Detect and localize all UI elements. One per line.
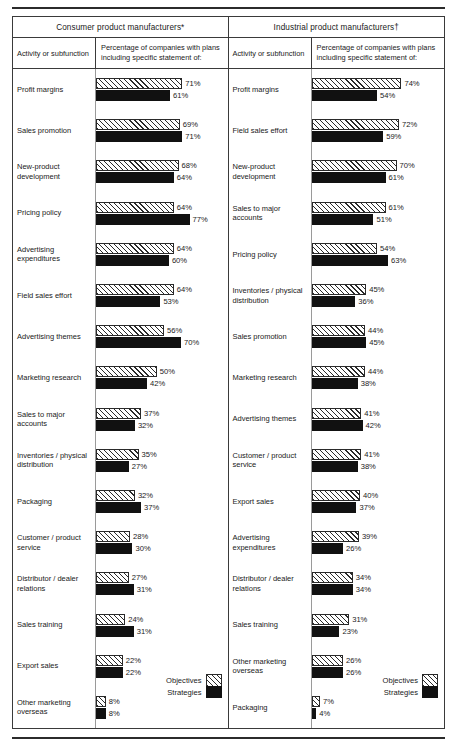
- row-label: Profit margins: [229, 69, 312, 110]
- bar-value-objectives: 27%: [132, 573, 147, 582]
- table-row: Inventories / physical distribution45%36…: [229, 275, 445, 316]
- bar-line-strategies: 27%: [96, 461, 228, 472]
- bar-strategies: [312, 584, 353, 595]
- bar-objectives: [96, 78, 182, 89]
- bar-line-objectives: 32%: [96, 490, 228, 501]
- table-row: Customer / product service28%30%: [13, 522, 228, 563]
- bar-objectives: [312, 160, 397, 171]
- bar-value-objectives: 69%: [183, 120, 198, 129]
- bar-value-objectives: 7%: [323, 697, 334, 706]
- legend-swatch-strategies: [422, 686, 438, 698]
- panel-consumer: Consumer product manufacturers* Activity…: [13, 17, 229, 728]
- bar-value-objectives: 68%: [182, 161, 197, 170]
- bar-objectives: [96, 696, 106, 707]
- row-bars: 32%37%: [96, 481, 228, 522]
- bar-objectives: [312, 366, 365, 377]
- bar-line-objectives: 40%: [312, 490, 445, 501]
- bar-objectives: [312, 119, 399, 130]
- bar-line-strategies: 71%: [96, 131, 228, 142]
- row-label: New-product development: [13, 151, 96, 192]
- bar-line-objectives: 45%: [312, 284, 445, 295]
- bar-value-strategies: 53%: [163, 297, 178, 306]
- bar-value-objectives: 64%: [177, 285, 192, 294]
- bar-value-objectives: 71%: [185, 79, 200, 88]
- row-label: Advertising expenditures: [229, 522, 312, 563]
- top-rule: [12, 7, 445, 9]
- legend-label-objectives: Objectives: [370, 676, 422, 685]
- row-bars: 39%26%: [312, 522, 445, 563]
- bar-line-objectives: 70%: [312, 160, 445, 171]
- bar-line-objectives: 35%: [96, 449, 228, 460]
- bar-objectives: [312, 202, 386, 213]
- row-bars: 37%32%: [96, 399, 228, 440]
- bar-value-strategies: 8%: [109, 709, 120, 718]
- bar-value-objectives: 41%: [364, 450, 379, 459]
- bar-strategies: [312, 214, 374, 225]
- row-bars: 41%38%: [312, 440, 445, 481]
- panel-industrial: Industrial product manufacturers† Activi…: [229, 17, 445, 728]
- bar-objectives: [312, 531, 359, 542]
- bar-value-objectives: 22%: [126, 656, 141, 665]
- bar-value-strategies: 22%: [126, 668, 141, 677]
- table-row: Sales to major accounts61%51%: [229, 193, 445, 234]
- bar-value-objectives: 8%: [109, 697, 120, 706]
- bar-objectives: [96, 655, 123, 666]
- table-row: Sales to major accounts37%32%: [13, 399, 228, 440]
- legend-swatch-objectives: [422, 674, 438, 686]
- bar-value-objectives: 26%: [346, 656, 361, 665]
- row-bars: 64%60%: [96, 234, 228, 275]
- row-bars: 44%45%: [312, 316, 445, 357]
- legend-row-strategies: Strategies: [370, 686, 438, 698]
- table-row: Marketing research50%42%: [13, 357, 228, 398]
- bar-line-strategies: 37%: [312, 502, 445, 513]
- bar-value-strategies: 26%: [346, 668, 361, 677]
- row-label: Customer / product service: [229, 440, 312, 481]
- bar-value-strategies: 37%: [359, 503, 374, 512]
- bar-line-objectives: 61%: [312, 202, 445, 213]
- bar-strategies: [312, 90, 378, 101]
- bar-value-objectives: 44%: [368, 367, 383, 376]
- bar-line-objectives: 27%: [96, 572, 228, 583]
- row-label: Pricing policy: [13, 193, 96, 234]
- bar-value-strategies: 42%: [150, 379, 165, 388]
- bar-value-strategies: 31%: [137, 627, 152, 636]
- row-label: Distributor / dealer relations: [13, 563, 96, 604]
- table-row: Sales promotion69%71%: [13, 110, 228, 151]
- bar-strategies: [312, 172, 386, 183]
- bar-line-objectives: 64%: [96, 284, 228, 295]
- row-label: Export sales: [229, 481, 312, 522]
- bar-objectives: [312, 284, 367, 295]
- bar-strategies: [96, 708, 106, 719]
- bar-value-strategies: 61%: [173, 91, 188, 100]
- table-row: Field sales effort72%59%: [229, 110, 445, 151]
- bar-line-objectives: 44%: [312, 366, 445, 377]
- bar-strategies: [96, 90, 170, 101]
- bar-strategies: [312, 255, 389, 266]
- row-bars: 35%27%: [96, 440, 228, 481]
- bar-strategies: [312, 543, 344, 554]
- bar-line-objectives: 22%: [96, 655, 228, 666]
- legend-row-strategies: Strategies: [154, 686, 222, 698]
- bar-value-objectives: 35%: [142, 450, 157, 459]
- legend-row-objectives: Objectives: [154, 674, 222, 686]
- table-row: Marketing research44%38%: [229, 357, 445, 398]
- bar-value-objectives: 72%: [402, 120, 417, 129]
- row-label: Field sales effort: [229, 110, 312, 151]
- bar-line-strategies: 42%: [96, 378, 228, 389]
- bar-value-strategies: 64%: [177, 173, 192, 182]
- table-row: Sales promotion44%45%: [229, 316, 445, 357]
- bar-value-objectives: 74%: [404, 79, 419, 88]
- table-row: New-product development70%61%: [229, 151, 445, 192]
- bar-line-strategies: 36%: [312, 296, 445, 307]
- column-header-activity-industrial: Activity or subfunction: [229, 38, 312, 68]
- bar-line-objectives: 41%: [312, 408, 445, 419]
- row-label: Export sales: [13, 646, 96, 687]
- bar-value-objectives: 54%: [380, 244, 395, 253]
- table-row: Profit margins71%61%: [13, 69, 228, 110]
- bar-line-objectives: 31%: [312, 614, 445, 625]
- table-row: Packaging32%37%: [13, 481, 228, 522]
- row-bars: 54%63%: [312, 234, 445, 275]
- bar-objectives: [312, 243, 378, 254]
- bar-strategies: [96, 131, 182, 142]
- legend-industrial: Objectives Strategies: [370, 674, 438, 698]
